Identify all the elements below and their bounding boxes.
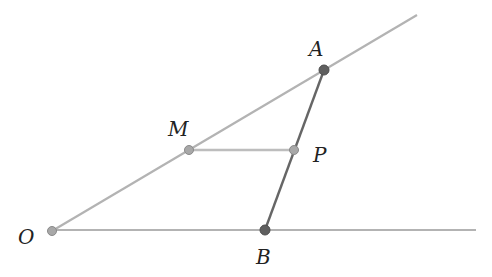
label-p: P (312, 143, 327, 167)
label-o: O (18, 225, 34, 249)
point-b[interactable] (260, 225, 270, 235)
point-p[interactable] (290, 146, 299, 155)
point-o[interactable] (48, 227, 57, 236)
label-a: A (307, 37, 323, 61)
label-m: M (167, 117, 189, 141)
label-b: B (255, 245, 271, 269)
geometry-diagram: O A B M P (0, 0, 492, 277)
ray-oa (52, 15, 417, 231)
point-a[interactable] (319, 65, 329, 75)
point-m[interactable] (185, 146, 194, 155)
